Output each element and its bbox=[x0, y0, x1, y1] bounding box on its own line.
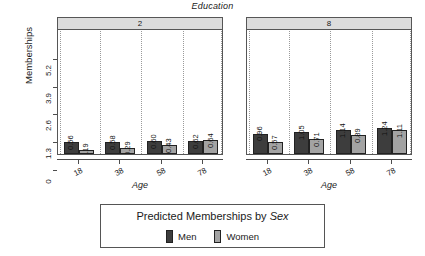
bar-value-label: 0.62 bbox=[191, 134, 200, 149]
grid-line bbox=[141, 31, 142, 154]
bar-value-label: 0.43 bbox=[164, 138, 173, 153]
chart-panel: 20.560.190.580.290.600.430.620.64 bbox=[57, 17, 223, 155]
legend-title: Predicted Memberships by Sex bbox=[101, 210, 324, 222]
y-axis-tick-label: 5.2 bbox=[44, 58, 53, 82]
legend-swatch bbox=[166, 230, 173, 243]
legend-item: Men bbox=[166, 230, 196, 243]
grid-line bbox=[249, 31, 250, 154]
legend-items: MenWomen bbox=[101, 230, 324, 243]
panel-plot-area: 0.560.190.580.290.600.430.620.64 bbox=[58, 31, 222, 154]
x-axis-tick bbox=[161, 160, 162, 164]
x-axis-tick bbox=[308, 160, 309, 164]
panel-strip-label: 8 bbox=[247, 18, 411, 30]
legend-title-prefix: Predicted Memberships by bbox=[136, 210, 269, 222]
grid-line bbox=[100, 31, 101, 154]
bar-value-label: 0.89 bbox=[353, 128, 362, 143]
chart-figure: Education Memberships 01.32.63.95.2 20.5… bbox=[0, 0, 425, 256]
legend-title-emphasis: Sex bbox=[270, 210, 289, 222]
x-axis: 18385878 bbox=[57, 159, 223, 165]
bar-value-label: 0.29 bbox=[123, 141, 132, 154]
x-axis-label: Age bbox=[246, 180, 412, 190]
bar-value-label: 0.19 bbox=[81, 143, 90, 154]
x-axis-tick bbox=[202, 160, 203, 164]
x-axis-tick bbox=[78, 160, 79, 164]
grid-line bbox=[60, 31, 61, 154]
grid-line bbox=[410, 31, 411, 154]
y-axis-label: Memberships bbox=[23, 0, 34, 116]
legend-swatch bbox=[214, 230, 221, 243]
bar-value-label: 0.71 bbox=[312, 132, 321, 147]
bar-value-label: 0.60 bbox=[149, 135, 158, 150]
bar-value-label: 1.05 bbox=[297, 125, 306, 140]
panel-strip-label: 2 bbox=[58, 18, 222, 30]
x-axis-tick bbox=[119, 160, 120, 164]
legend-item: Women bbox=[214, 230, 259, 243]
grid-line bbox=[221, 31, 222, 154]
bar-value-label: 1.24 bbox=[380, 121, 389, 136]
x-axis-tick bbox=[391, 160, 392, 164]
bar-value-label: 1.14 bbox=[338, 123, 347, 138]
x-axis-tick bbox=[267, 160, 268, 164]
bar-value-label: 0.96 bbox=[255, 127, 264, 142]
bar-value-label: 1.11 bbox=[395, 124, 404, 138]
x-axis: 18385878 bbox=[246, 159, 412, 165]
grid-line bbox=[183, 31, 184, 154]
x-axis-tick bbox=[350, 160, 351, 164]
x-axis-label: Age bbox=[57, 180, 223, 190]
bar-value-label: 0.64 bbox=[206, 134, 215, 149]
grid-line bbox=[372, 31, 373, 154]
panel-plot-area: 0.960.571.050.711.140.891.241.11 bbox=[247, 31, 411, 154]
legend-item-label: Women bbox=[226, 231, 259, 242]
legend: Predicted Memberships by Sex MenWomen bbox=[100, 204, 325, 248]
legend-item-label: Men bbox=[178, 231, 196, 242]
y-axis-tick-label: 2.6 bbox=[44, 114, 53, 138]
bar-value-label: 0.57 bbox=[270, 135, 279, 150]
grid-line bbox=[330, 31, 331, 154]
y-axis-tick-label: 3.9 bbox=[44, 86, 53, 110]
chart-panel: 80.960.571.050.711.140.891.241.11 bbox=[246, 17, 412, 155]
bar-value-label: 0.56 bbox=[66, 135, 75, 150]
grid-line bbox=[289, 31, 290, 154]
y-axis-tick bbox=[53, 170, 57, 171]
chart-title: Education bbox=[0, 1, 425, 11]
y-axis-tick-label: 1.3 bbox=[44, 142, 53, 166]
y-axis-tick-label: 0 bbox=[44, 170, 53, 194]
bar-value-label: 0.58 bbox=[108, 135, 117, 150]
